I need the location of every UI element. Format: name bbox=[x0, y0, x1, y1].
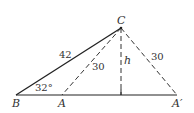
label-height: h bbox=[124, 54, 131, 67]
label-a-prime: A′ bbox=[171, 97, 183, 110]
side-bc bbox=[16, 28, 121, 95]
label-b: B bbox=[11, 97, 20, 110]
triangle-diagram: C B A A′ 42 30 h 30 32° bbox=[0, 0, 194, 113]
vertex-c-dot bbox=[120, 27, 123, 30]
label-ca-length: 30 bbox=[92, 61, 105, 72]
label-angle-b: 32° bbox=[35, 82, 53, 93]
label-a: A bbox=[57, 97, 66, 110]
label-ca-prime-length: 30 bbox=[151, 51, 164, 62]
label-c: C bbox=[117, 14, 126, 27]
label-bc-length: 42 bbox=[59, 49, 72, 60]
